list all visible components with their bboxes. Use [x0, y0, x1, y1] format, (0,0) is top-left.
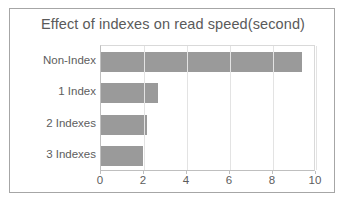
x-axis-tick-labels: 0246810 — [100, 174, 315, 190]
chart-frame: Effect of indexes on read speed(second) … — [9, 8, 335, 193]
x-axis-tickmark — [100, 171, 101, 174]
y-axis-label-1-index: 1 Index — [10, 85, 96, 97]
x-axis-tickmark — [229, 171, 230, 174]
y-axis-label-non-index: Non-Index — [10, 54, 96, 66]
x-axis-tickmark — [186, 171, 187, 174]
x-axis-tick-10: 10 — [309, 174, 322, 186]
plot-area — [100, 45, 315, 171]
gridline — [144, 46, 145, 170]
bar-fill — [101, 146, 143, 166]
x-axis-tick-0: 0 — [97, 174, 103, 186]
bar-2-indexes — [101, 115, 147, 135]
bar-fill — [101, 52, 302, 72]
bar-3-indexes — [101, 146, 143, 166]
y-axis-label-3-indexes: 3 Indexes — [10, 148, 96, 160]
gridline — [230, 46, 231, 170]
bar-non-index — [101, 52, 302, 72]
bar-fill — [101, 83, 158, 103]
x-axis-tickmark — [143, 171, 144, 174]
x-axis-tick-6: 6 — [226, 174, 232, 186]
x-axis-tickmark — [272, 171, 273, 174]
x-axis-tick-8: 8 — [269, 174, 275, 186]
gridline — [187, 46, 188, 170]
y-axis-label-2-indexes: 2 Indexes — [10, 117, 96, 129]
chart-screenshot: Effect of indexes on read speed(second) … — [0, 0, 346, 206]
gridline — [316, 46, 317, 170]
gridline — [273, 46, 274, 170]
bar-1-index — [101, 83, 158, 103]
bar-fill — [101, 115, 147, 135]
y-axis-category-labels: Non-Index1 Index2 Indexes3 Indexes — [10, 45, 96, 171]
x-axis-tickmark — [315, 171, 316, 174]
x-axis-tick-2: 2 — [140, 174, 146, 186]
x-axis-tick-4: 4 — [183, 174, 189, 186]
chart-title: Effect of indexes on read speed(second) — [10, 16, 336, 32]
bars-layer — [101, 46, 314, 170]
